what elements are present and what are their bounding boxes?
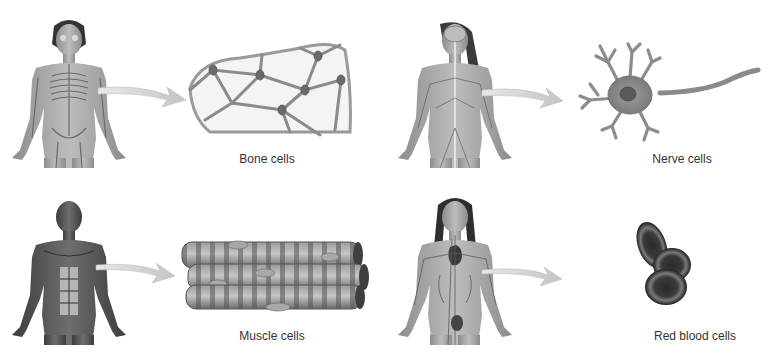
panel-nerve <box>398 22 758 168</box>
arrow-blood <box>482 267 562 286</box>
panel-blood <box>398 198 691 345</box>
arrow-nerve <box>482 88 563 108</box>
red-blood-cells <box>631 218 691 305</box>
muscular-system-figure <box>12 201 126 345</box>
arrow-muscle <box>96 263 175 283</box>
diagram-canvas <box>0 0 780 354</box>
label-nerve-cells: Nerve cells <box>652 152 711 166</box>
label-red-blood-cells: Red blood cells <box>654 329 736 343</box>
skeleton-figure <box>12 20 126 168</box>
muscle-fibers <box>182 241 369 311</box>
panel-muscle <box>12 201 369 345</box>
panel-bone <box>12 20 350 168</box>
arrow-bone <box>98 87 186 107</box>
label-muscle-cells: Muscle cells <box>239 329 304 343</box>
neuron <box>580 44 758 140</box>
bone-cell-network <box>190 44 350 135</box>
label-bone-cells: Bone cells <box>239 152 294 166</box>
